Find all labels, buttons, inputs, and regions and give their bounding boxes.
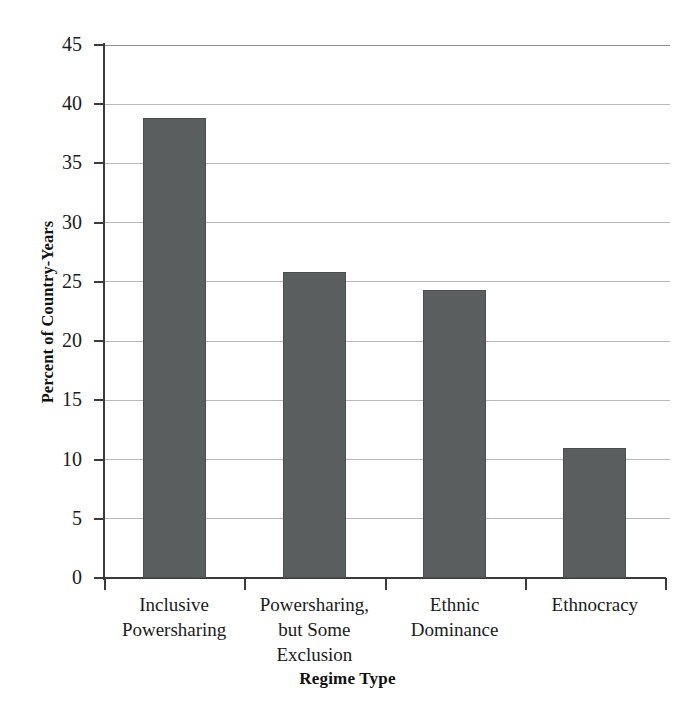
y-axis-tick-label: 20	[22, 330, 82, 350]
y-axis-tick-label: 5	[22, 508, 82, 528]
y-axis-tick-label: 0	[22, 567, 82, 587]
x-axis-tick-label-line: Exclusion	[244, 642, 384, 667]
x-axis-tick-label: InclusivePowersharing	[104, 592, 244, 642]
x-axis-tick-label-line: Ethnic	[385, 592, 525, 617]
x-axis-tick	[244, 578, 246, 590]
bar	[563, 448, 626, 578]
x-axis-tick	[104, 578, 106, 590]
x-axis-tick-label-line: Ethnocracy	[525, 592, 665, 617]
x-axis-tick-label-line: Inclusive	[104, 592, 244, 617]
y-axis-title: Percent of Country-Years	[38, 162, 58, 462]
x-axis-tick-label: EthnicDominance	[385, 592, 525, 642]
x-axis-tick-label: Powersharing,but SomeExclusion	[244, 592, 384, 667]
y-axis-tick-label: 25	[22, 271, 82, 291]
gridline	[104, 45, 670, 46]
x-axis-tick-label-line: Powersharing	[104, 617, 244, 642]
bar	[423, 290, 486, 578]
bar-chart: Percent of Country-Years 051015202530354…	[0, 0, 695, 709]
x-axis-tick-label-line: Dominance	[385, 617, 525, 642]
x-axis-title: Regime Type	[0, 669, 695, 689]
bar	[143, 118, 206, 578]
x-axis-tick	[525, 578, 527, 590]
y-axis-tick-label: 40	[22, 93, 82, 113]
y-axis-tick-label: 30	[22, 212, 82, 232]
y-axis-line	[103, 43, 105, 580]
x-axis-tick	[665, 578, 667, 590]
x-axis-tick-label-line: Powersharing,	[244, 592, 384, 617]
bar	[283, 272, 346, 578]
x-axis-tick	[385, 578, 387, 590]
y-axis-tick-label: 35	[22, 152, 82, 172]
y-axis-tick-label: 10	[22, 449, 82, 469]
y-axis-tick-label: 15	[22, 389, 82, 409]
x-axis-tick-label-line: but Some	[244, 617, 384, 642]
x-axis-tick-label: Ethnocracy	[525, 592, 665, 617]
gridline	[104, 104, 670, 105]
y-axis-tick-label: 45	[22, 34, 82, 54]
